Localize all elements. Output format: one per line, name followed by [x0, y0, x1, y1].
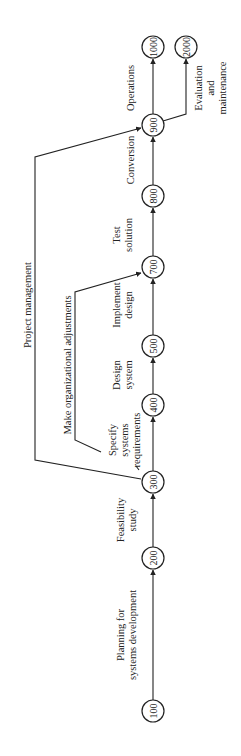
svg-text:systems: systems	[119, 423, 130, 456]
svg-text:300: 300	[148, 475, 159, 490]
svg-text:900: 900	[148, 118, 159, 133]
svg-text:Operations: Operations	[125, 65, 136, 111]
svg-text:Implement: Implement	[111, 282, 122, 328]
label-project-management: Project management	[22, 262, 33, 348]
node-400: 400	[142, 394, 164, 416]
svg-text:200: 200	[148, 551, 159, 566]
svg-text:design: design	[123, 291, 134, 319]
svg-text:Make organizational adjustment: Make organizational adjustments	[62, 295, 73, 434]
label-operations: Operations	[125, 65, 136, 111]
svg-text:study: study	[127, 508, 138, 532]
svg-text:2000: 2000	[181, 37, 192, 57]
node-700: 700	[142, 256, 164, 278]
svg-text:system: system	[123, 360, 134, 389]
node-800: 800	[142, 185, 164, 207]
svg-text:and: and	[205, 80, 216, 96]
label-evaluation-maintenance: Evaluation and maintenance	[193, 61, 228, 114]
svg-text:Planning for: Planning for	[115, 608, 126, 661]
svg-text:Design: Design	[111, 359, 122, 389]
svg-text:1000: 1000	[148, 37, 159, 57]
svg-text:100: 100	[148, 704, 159, 719]
edge-900-2000	[163, 59, 186, 121]
label-conversion: Conversion	[125, 135, 136, 184]
svg-text:500: 500	[148, 339, 159, 354]
network-diagram: 100 200 300 400 500 700 800 900 1000 200…	[0, 0, 241, 756]
label-design-system: Design system	[111, 359, 134, 389]
svg-text:systems development: systems development	[127, 590, 138, 680]
node-200: 200	[142, 547, 164, 569]
label-test-solution: Test solution	[111, 217, 134, 252]
label-planning: Planning for systems development	[115, 590, 138, 680]
label-org-adjustments: Make organizational adjustments	[62, 295, 73, 434]
svg-text:Test: Test	[111, 226, 122, 243]
svg-text:Specify: Specify	[107, 423, 118, 456]
node-300: 300	[142, 471, 164, 493]
svg-text:400: 400	[148, 398, 159, 413]
svg-text:requirements: requirements	[131, 413, 142, 468]
node-900: 900	[142, 114, 164, 136]
svg-text:Evaluation: Evaluation	[193, 65, 204, 111]
node-2000: 2000	[175, 36, 197, 58]
node-500: 500	[142, 335, 164, 357]
svg-text:700: 700	[148, 260, 159, 275]
label-specify-requirements: Specify systems requirements	[107, 413, 142, 468]
label-feasibility: Feasibility study	[115, 497, 138, 542]
svg-text:800: 800	[148, 189, 159, 204]
label-implement-design: Implement design	[111, 282, 134, 328]
svg-text:Conversion: Conversion	[125, 135, 136, 184]
node-1000: 1000	[142, 36, 164, 58]
svg-text:Feasibility: Feasibility	[115, 497, 126, 542]
node-100: 100	[142, 700, 164, 722]
svg-text:solution: solution	[123, 217, 134, 252]
svg-text:Project management: Project management	[22, 262, 33, 348]
svg-text:maintenance: maintenance	[217, 61, 228, 114]
